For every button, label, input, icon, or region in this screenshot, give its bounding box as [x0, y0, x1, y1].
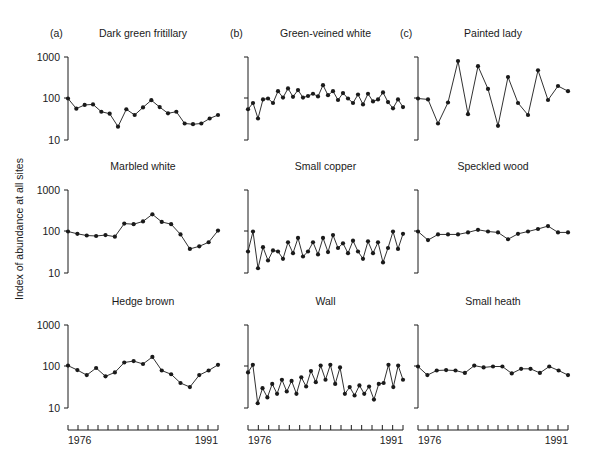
- data-point: [311, 240, 315, 244]
- data-point: [331, 89, 335, 93]
- data-point: [346, 96, 350, 100]
- data-point: [386, 246, 390, 250]
- data-point: [391, 385, 395, 389]
- data-point: [301, 96, 305, 100]
- data-point: [94, 366, 98, 370]
- data-point: [124, 107, 128, 111]
- data-point: [357, 383, 361, 387]
- data-point: [456, 59, 460, 63]
- data-point: [556, 230, 560, 234]
- y-tick-label: 100: [42, 92, 60, 104]
- data-point: [333, 382, 337, 386]
- panel-title: Small copper: [295, 160, 357, 172]
- butterfly-abundance-figure: Index of abundance at all sites (a)Dark …: [0, 0, 591, 457]
- data-point: [436, 232, 440, 236]
- data-point: [208, 116, 212, 120]
- data-point: [281, 257, 285, 261]
- data-point: [366, 92, 370, 96]
- data-point: [294, 392, 298, 396]
- data-point: [391, 229, 395, 233]
- data-point: [132, 222, 136, 226]
- data-point: [506, 237, 510, 241]
- data-point: [444, 368, 448, 372]
- data-point: [426, 238, 430, 242]
- data-point: [446, 100, 450, 104]
- data-point: [261, 245, 265, 249]
- panel-letter: (c): [400, 27, 412, 39]
- data-point: [381, 90, 385, 94]
- data-point: [436, 121, 440, 125]
- data-point: [367, 384, 371, 388]
- data-point: [174, 110, 178, 114]
- data-point: [197, 373, 201, 377]
- data-point: [396, 97, 400, 101]
- y-tick-label: 1000: [37, 51, 61, 63]
- data-point: [188, 385, 192, 389]
- data-point: [321, 236, 325, 240]
- data-point: [566, 89, 570, 93]
- y-tick-label: 100: [42, 225, 60, 237]
- data-point: [286, 240, 290, 244]
- data-point: [83, 103, 87, 107]
- data-point: [103, 374, 107, 378]
- data-point: [66, 96, 70, 100]
- data-point: [486, 87, 490, 91]
- data-point: [150, 355, 154, 359]
- y-tick-label: 10: [48, 267, 60, 279]
- data-point: [356, 92, 360, 96]
- data-point: [377, 382, 381, 386]
- data-point: [286, 86, 290, 90]
- data-point: [166, 111, 170, 115]
- data-point: [256, 116, 260, 120]
- data-point: [251, 101, 255, 105]
- data-point: [506, 75, 510, 79]
- data-point: [361, 257, 365, 261]
- data-point: [396, 364, 400, 368]
- data-point: [74, 107, 78, 111]
- data-point: [323, 378, 327, 382]
- data-point: [85, 373, 89, 377]
- data-point: [338, 365, 342, 369]
- data-point: [486, 229, 490, 233]
- data-point: [280, 378, 284, 382]
- figure-canvas: (a)Dark green fritillary100010010(b)Gree…: [0, 0, 591, 457]
- data-point: [260, 386, 264, 390]
- panel-hedge-brown: Hedge brown10001001019761991: [37, 295, 220, 446]
- data-point: [75, 232, 79, 236]
- panel-title: Dark green fritillary: [99, 27, 188, 39]
- data-point: [391, 106, 395, 110]
- data-point: [261, 97, 265, 101]
- data-point: [466, 230, 470, 234]
- data-point: [526, 113, 530, 117]
- data-point: [178, 381, 182, 385]
- panel-painted-lady: (c)Painted lady: [400, 27, 570, 140]
- series-line: [68, 357, 218, 387]
- data-point: [321, 83, 325, 87]
- data-point: [66, 364, 70, 368]
- data-point: [246, 107, 250, 111]
- panel-title: Hedge brown: [112, 295, 175, 307]
- data-point: [270, 382, 274, 386]
- data-point: [197, 244, 201, 248]
- data-point: [556, 84, 560, 88]
- data-point: [256, 401, 260, 405]
- data-point: [91, 102, 95, 106]
- data-point: [352, 393, 356, 397]
- panel-title: Green-veined white: [280, 27, 371, 39]
- data-point: [351, 239, 355, 243]
- data-point: [425, 373, 429, 377]
- data-point: [265, 395, 269, 399]
- data-point: [160, 220, 164, 224]
- data-point: [216, 113, 220, 117]
- data-point: [516, 101, 520, 105]
- data-point: [188, 247, 192, 251]
- data-point: [328, 363, 332, 367]
- data-point: [183, 121, 187, 125]
- data-point: [309, 369, 313, 373]
- data-point: [319, 364, 323, 368]
- y-tick-label: 10: [48, 134, 60, 146]
- data-point: [316, 252, 320, 256]
- data-point: [122, 222, 126, 226]
- data-point: [289, 379, 293, 383]
- data-point: [207, 368, 211, 372]
